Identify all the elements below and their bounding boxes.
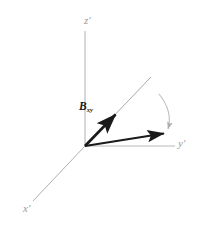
diagram-canvas (0, 0, 202, 234)
x-prime-axis-line (33, 146, 85, 201)
rotating-frame-vector-diagram: z′ y′ x′ Bxy (0, 0, 202, 234)
x-prime-axis-label: x′ (23, 202, 30, 214)
z-prime-axis-label: z′ (84, 14, 91, 26)
rotation-direction-arc (159, 94, 169, 129)
y-prime-axis-label: y′ (178, 137, 185, 149)
b-field-vector-label: Bxy (79, 100, 93, 113)
